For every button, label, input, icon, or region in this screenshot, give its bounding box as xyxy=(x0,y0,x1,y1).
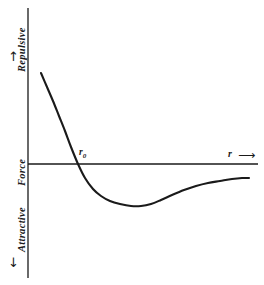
axis-label-attractive: Attractive xyxy=(17,207,28,252)
arrow-up-icon: ↑ xyxy=(8,50,19,63)
force-separation-figure: Repulsive ↑ Force Attractive ↓ r ⟶ r0 xyxy=(0,0,264,285)
arrow-down-icon: ↓ xyxy=(8,256,19,269)
annotation-r-zero-subscript: 0 xyxy=(83,152,87,160)
arrow-right-icon: ⟶ xyxy=(238,149,255,161)
axis-label-r: r xyxy=(228,148,232,159)
axis-label-force: Force xyxy=(17,159,28,186)
plot-canvas xyxy=(0,0,264,285)
force-curve xyxy=(41,73,249,206)
annotation-r-zero: r0 xyxy=(79,148,86,160)
